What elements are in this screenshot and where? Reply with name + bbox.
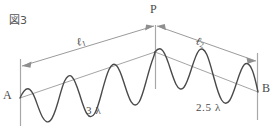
wave-interference-figure: 図3 P A B ℓ1 ℓ2 3 λ 2.5 λ [0,0,277,131]
wave-path-right [155,49,258,103]
figure-drawing-canvas [0,0,277,131]
point-label-p: P [150,3,157,15]
path-length-label-left: 3 λ [86,105,101,116]
path-length-label-right: 2.5 λ [196,102,221,113]
baseline-left [20,52,155,98]
baseline-right [155,52,258,92]
point-label-a: A [3,89,12,101]
dimension-arrow-l2 [157,24,256,64]
figure-number-label: 図3 [9,15,27,26]
dimension-arrow-l1 [22,24,154,67]
point-label-b: B [262,82,270,94]
